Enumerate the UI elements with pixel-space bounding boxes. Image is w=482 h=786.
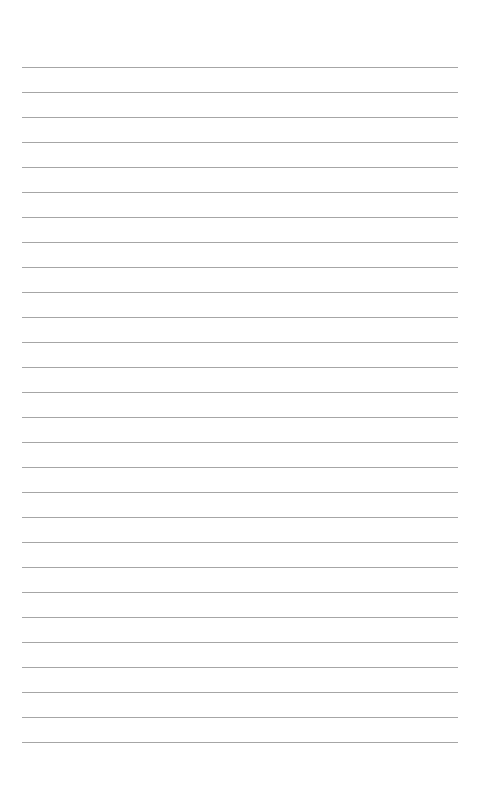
ruled-line <box>22 367 458 368</box>
ruled-line <box>22 442 458 443</box>
ruled-line <box>22 292 458 293</box>
ruled-line <box>22 417 458 418</box>
ruled-line <box>22 667 458 668</box>
ruled-line <box>22 217 458 218</box>
ruled-line <box>22 342 458 343</box>
ruled-line <box>22 267 458 268</box>
ruled-line <box>22 517 458 518</box>
ruled-line <box>22 492 458 493</box>
ruled-line <box>22 117 458 118</box>
ruled-line <box>22 642 458 643</box>
ruled-line <box>22 167 458 168</box>
ruled-line <box>22 617 458 618</box>
ruled-line <box>22 242 458 243</box>
lined-paper-page <box>0 0 482 786</box>
ruled-line <box>22 742 458 743</box>
ruled-line <box>22 317 458 318</box>
ruled-line <box>22 692 458 693</box>
ruled-line <box>22 717 458 718</box>
ruled-line <box>22 542 458 543</box>
ruled-line <box>22 392 458 393</box>
ruled-line <box>22 192 458 193</box>
ruled-line <box>22 592 458 593</box>
ruled-line <box>22 567 458 568</box>
ruled-line <box>22 67 458 68</box>
ruled-line <box>22 467 458 468</box>
ruled-line <box>22 92 458 93</box>
ruled-line <box>22 142 458 143</box>
